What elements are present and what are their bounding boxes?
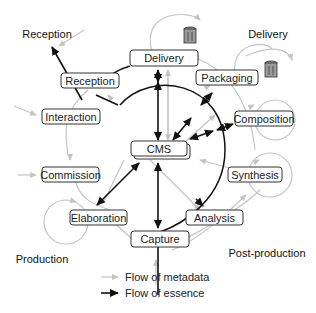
node-label: Interaction: [45, 111, 96, 123]
node-label: Reception: [65, 75, 115, 87]
interaction-in-arrow: [14, 106, 36, 115]
node-interaction[interactable]: Interaction: [42, 109, 100, 124]
node-label: Commission: [40, 169, 101, 181]
node-label: Capture: [140, 233, 179, 245]
region-label-post-production: Post-production: [228, 247, 305, 259]
node-reception[interactable]: Reception: [61, 73, 119, 88]
node-label: Elaboration: [71, 212, 127, 224]
trash-bin-icon: [265, 61, 277, 77]
node-synthesis[interactable]: Synthesis: [228, 167, 282, 182]
node-elaboration[interactable]: Elaboration: [70, 210, 127, 225]
node-cms[interactable]: CMS: [131, 141, 190, 159]
ring-notch: [96, 95, 118, 105]
node-composition[interactable]: Composition: [233, 111, 294, 126]
legend-essence-label: Flow of essence: [125, 287, 204, 299]
node-commission[interactable]: Commission: [40, 167, 101, 182]
region-label-production: Production: [16, 253, 69, 265]
node-analysis[interactable]: Analysis: [186, 210, 243, 225]
node-packaging[interactable]: Packaging: [196, 70, 258, 85]
node-label: Composition: [233, 113, 294, 125]
region-label-delivery: Delivery: [248, 28, 288, 40]
media-workflow-diagram: Reception Delivery Production Post-produ…: [0, 0, 316, 313]
node-label: CMS: [147, 143, 171, 155]
cms-elaboration-essence: [97, 163, 139, 205]
node-label: Delivery: [144, 52, 184, 64]
node-label: Synthesis: [231, 169, 279, 181]
legend-metadata-label: Flow of metadata: [125, 271, 210, 283]
node-capture[interactable]: Capture: [131, 231, 189, 247]
node-label: Packaging: [201, 72, 252, 84]
node-label: Analysis: [194, 212, 235, 224]
trash-bin-icon: [184, 27, 196, 43]
cms-packaging-essence: [173, 118, 191, 140]
ring-analysis-essence: [196, 199, 203, 206]
delivery-region-arrow: [246, 49, 292, 60]
node-delivery[interactable]: Delivery: [130, 50, 198, 66]
synthesis-cms-meta: [200, 160, 230, 168]
region-label-reception: Reception: [22, 28, 72, 40]
